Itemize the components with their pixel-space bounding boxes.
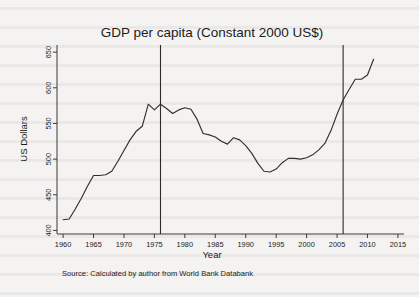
source-note: Source: Calculated by author from World … — [62, 269, 253, 278]
y-tick-label: 600 — [45, 82, 54, 94]
x-tick-label: 1975 — [146, 240, 162, 249]
gdp-per-capita-line — [63, 59, 373, 219]
y-tick-label: 650 — [45, 46, 54, 58]
y-tick-label: 450 — [45, 189, 54, 201]
y-tick-label: 550 — [45, 117, 54, 129]
x-axis-ticks: 1960196519701975198019851990199520002005… — [55, 234, 406, 249]
x-axis-title: Year — [202, 249, 221, 260]
x-tick-label: 1960 — [55, 240, 71, 249]
x-axis: 1960196519701975198019851990199520002005… — [55, 234, 406, 260]
y-tick-label: 400 — [45, 224, 54, 236]
x-tick-label: 2005 — [329, 240, 345, 249]
x-tick-label: 1965 — [85, 240, 101, 249]
x-tick-label: 2015 — [390, 240, 406, 249]
y-tick-label: 500 — [45, 153, 54, 165]
x-tick-label: 1995 — [268, 240, 284, 249]
chart-title: GDP per capita (Constant 2000 US$) — [101, 25, 324, 40]
x-tick-label: 2000 — [298, 240, 314, 249]
chart-figure: GDP per capita (Constant 2000 US$) 40045… — [0, 0, 419, 297]
x-tick-label: 1990 — [237, 240, 253, 249]
x-tick-label: 1985 — [207, 240, 223, 249]
y-axis-title: US Dollars — [18, 116, 29, 162]
y-axis: 400450500550600650 US Dollars — [18, 45, 57, 237]
x-tick-label: 1970 — [116, 240, 132, 249]
x-tick-label: 2010 — [359, 240, 375, 249]
y-axis-ticks: 400450500550600650 — [45, 46, 58, 237]
x-tick-label: 1980 — [177, 240, 193, 249]
reference-lines — [160, 45, 343, 234]
